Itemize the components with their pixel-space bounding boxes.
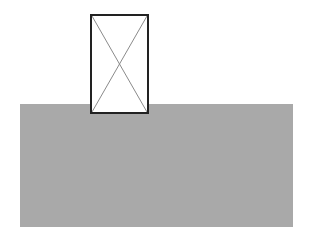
gray-base-rectangle xyxy=(20,104,293,227)
image-placeholder-box xyxy=(90,14,149,114)
cross-icon xyxy=(92,16,147,112)
